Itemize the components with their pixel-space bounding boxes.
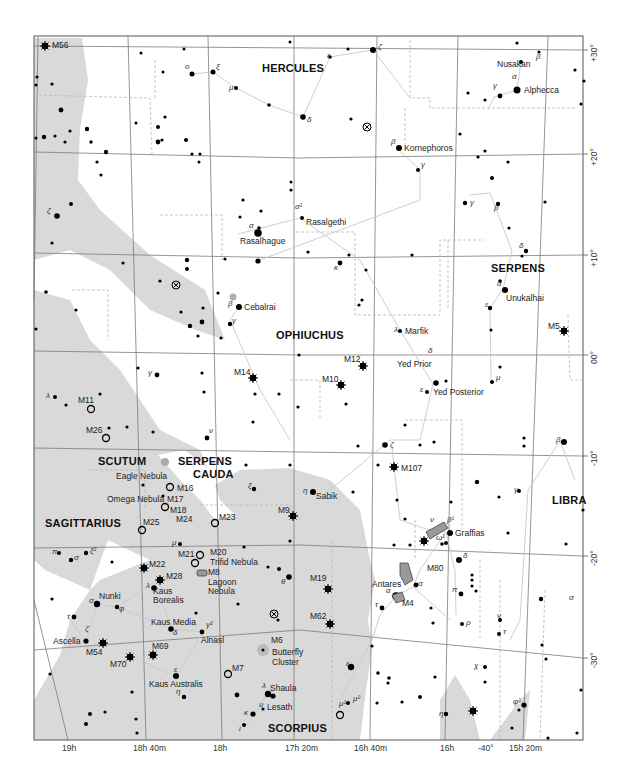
greek-letter-label: φ¹ — [513, 698, 521, 706]
dec-tick-label: +30° — [590, 44, 599, 62]
constellation-label-ophiuchus: OPHIUCHUS — [276, 330, 344, 341]
dso-label: M19 — [310, 574, 327, 583]
greek-letter-label: δ — [463, 552, 467, 560]
greek-letter-label: γ — [470, 199, 474, 207]
constellation-label-serpens-cauda-1: SERPENS — [178, 456, 232, 467]
star-label: Rasalgethi — [306, 218, 346, 227]
greek-letter-label: ζ — [378, 43, 382, 51]
dso-label: M17 — [167, 495, 184, 504]
greek-letter-label: υ — [259, 701, 263, 709]
dso-label: M28 — [166, 572, 183, 581]
greek-letter-label: τ — [67, 613, 70, 621]
greek-letter-label: β — [391, 138, 396, 146]
ra-tick-label: 19h — [62, 744, 76, 753]
star-label: Nusakan — [497, 60, 531, 69]
greek-letter-label: ο — [185, 63, 189, 71]
dso-label: M5 — [548, 322, 560, 331]
dso-label: M4 — [402, 599, 414, 608]
greek-letter-label: κ — [244, 709, 248, 717]
greek-letter-label: σ — [569, 594, 574, 602]
dso-label: Trifid Nebula — [210, 558, 258, 567]
greek-letter-label: μ — [229, 84, 233, 92]
greek-letter-label: β — [494, 204, 499, 212]
dso-label: M6 — [271, 636, 283, 645]
ra-tick-label: 18h 40m — [133, 744, 166, 753]
star-label: Ascella — [53, 637, 80, 646]
greek-letter-label: ζ — [85, 625, 89, 633]
dso-label: Cluster — [272, 658, 299, 667]
dec-tick-label: -10° — [590, 450, 599, 466]
greek-letter-label: α — [386, 587, 391, 595]
constellation-label-sagittarius: SAGITTARIUS — [45, 518, 121, 529]
dec-tick-label: +20° — [590, 148, 599, 166]
greek-letter-label: ζ — [47, 207, 51, 215]
greek-letter-label: ξ — [216, 63, 220, 71]
greek-letter-label: δ — [519, 242, 523, 250]
greek-letter-label: γ — [493, 82, 497, 90]
dso-label: M8 — [208, 568, 220, 577]
ra-tick-label: 17h 20m — [285, 744, 318, 753]
greek-letter-label: γ — [148, 369, 152, 377]
star-label: Lesath — [267, 703, 293, 712]
greek-letter-label: μ² — [353, 695, 360, 703]
greek-letter-label: λ — [394, 326, 398, 334]
ra-tick-label: -40° — [478, 744, 494, 753]
star-chart — [0, 0, 629, 775]
greek-letter-label: π — [452, 586, 457, 594]
dso-label: M69 — [152, 642, 169, 651]
greek-letter-label: ζ — [390, 441, 394, 449]
dso-label: Butterfly — [272, 648, 303, 657]
dso-label: M14 — [234, 368, 251, 377]
dso-label: M9 — [278, 506, 290, 515]
greek-letter-label: ρ — [466, 619, 471, 627]
star-label: Graffias — [455, 529, 485, 538]
greek-letter-label: σ — [418, 580, 423, 588]
star-label: Nunki — [99, 592, 121, 601]
greek-letter-label: η — [439, 710, 443, 718]
greek-letter-label: ξ² — [90, 547, 96, 555]
greek-letter-label: β — [536, 53, 541, 61]
greek-letter-label: ε — [420, 386, 424, 394]
greek-letter-label: ε — [346, 660, 350, 668]
dso-label: M12 — [344, 355, 361, 364]
constellation-label-scorpius: SCORPIUS — [268, 723, 327, 734]
greek-letter-label: α — [497, 280, 502, 288]
ra-tick-label: 18h — [213, 744, 227, 753]
greek-letter-label: α — [512, 73, 517, 81]
greek-letter-label: ν — [209, 427, 213, 435]
constellation-label-serpens: SERPENS — [491, 263, 545, 274]
star-label: Marfik — [405, 327, 428, 336]
greek-letter-label: γ — [232, 317, 236, 325]
greek-letter-label: δ — [173, 629, 177, 637]
constellation-label-serpens-cauda-2: CAUDA — [193, 469, 234, 480]
greek-letter-label: ξ — [248, 482, 252, 490]
greek-letter-label: ε — [174, 666, 178, 674]
dso-label: M10 — [322, 375, 339, 384]
greek-letter-label: μ¹ — [339, 700, 346, 708]
star-label: Kaus Borealis — [153, 587, 193, 604]
dec-tick-label: -30° — [590, 652, 599, 668]
greek-letter-label: η — [176, 688, 180, 696]
dso-label: M25 — [143, 518, 160, 527]
greek-letter-label: μ — [172, 539, 176, 547]
dso-label: M16 — [177, 484, 194, 493]
greek-letter-label: λ — [46, 392, 50, 400]
greek-letter-label: κ — [334, 264, 338, 272]
greek-letter-label: χ — [474, 662, 478, 670]
dso-label: M24 — [176, 515, 193, 524]
greek-letter-label: δ — [307, 116, 311, 124]
constellation-label-scutum: SCUTUM — [98, 456, 146, 467]
greek-letter-label: θ — [281, 578, 285, 586]
dso-label: M62 — [310, 612, 327, 621]
greek-letter-label: β — [228, 300, 233, 308]
greek-letter-label: γ — [421, 161, 425, 169]
star-label: Yed Prior — [397, 360, 432, 369]
greek-letter-label: φ — [119, 605, 124, 613]
star-label: Shaula — [270, 684, 296, 693]
greek-letter-label: σ — [89, 597, 94, 605]
dso-label: Omega Nebula — [107, 495, 164, 504]
constellation-label-libra: LIBRA — [552, 495, 587, 506]
dec-tick-label: 00° — [590, 351, 599, 364]
greek-letter-label: ν — [497, 612, 501, 620]
greek-letter-label: τ — [503, 628, 506, 636]
